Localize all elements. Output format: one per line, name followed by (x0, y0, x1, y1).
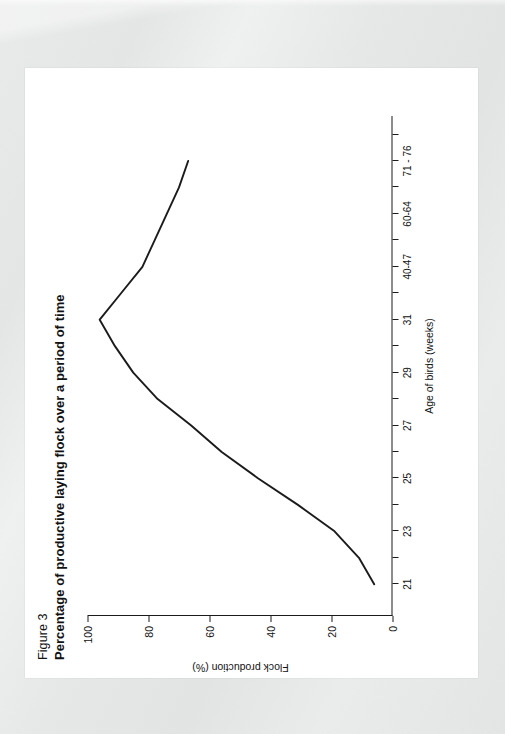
x-axis-tick (392, 583, 398, 584)
y-axis-title: Flock production (%) (191, 662, 287, 674)
y-axis-tick-label: 20 (325, 626, 337, 656)
x-axis-tick-label: 21 (401, 579, 412, 590)
y-axis-tick (392, 616, 393, 622)
x-axis-tick-label: 60-64 (401, 201, 412, 227)
x-axis-tick (392, 160, 398, 161)
document-page: Figure 3 Percentage of productive laying… (25, 68, 478, 678)
x-axis-minor-tick (392, 504, 398, 505)
x-axis-tick (392, 425, 398, 426)
y-axis-tick-label: 0 (386, 626, 398, 656)
x-axis-tick-label: 23 (401, 526, 412, 537)
line-chart-plot-area: 020406080100 21232527293140-4760-6471 - … (87, 116, 392, 616)
x-axis-minor-tick (392, 239, 398, 240)
x-axis-minor-tick (392, 451, 398, 452)
x-axis-tick-label: 40-47 (401, 254, 412, 280)
scanned-page-screenshot: Figure 3 Percentage of productive laying… (0, 0, 505, 734)
x-axis-tick (392, 266, 398, 267)
x-axis-tick-label: 71 - 76 (401, 145, 412, 176)
y-axis-tick-label: 40 (264, 626, 276, 656)
x-axis-tick (392, 530, 398, 531)
x-axis-minor-tick (392, 557, 398, 558)
y-axis-tick (331, 616, 332, 622)
y-axis-tick (87, 616, 88, 622)
x-axis-tick (392, 372, 398, 373)
flock-production-series (87, 116, 392, 616)
x-axis-minor-tick (392, 186, 398, 187)
x-axis-tick (392, 477, 398, 478)
figure-canvas: Figure 3 Percentage of productive laying… (25, 68, 478, 678)
x-axis-minor-tick (392, 134, 398, 135)
x-axis-tick (392, 213, 398, 214)
x-axis-title: Age of birds (weeks) (422, 116, 434, 616)
y-axis-tick (148, 616, 149, 622)
x-axis-tick-label: 25 (401, 473, 412, 484)
x-axis-tick (392, 319, 398, 320)
y-axis-tick-label: 100 (81, 626, 93, 656)
figure-title: Percentage of productive laying flock ov… (51, 294, 66, 660)
x-axis-tick-label: 27 (401, 420, 412, 431)
x-axis-minor-tick (392, 345, 398, 346)
x-axis-tick-label: 31 (401, 314, 412, 325)
x-axis-minor-tick (392, 292, 398, 293)
x-axis-tick-label: 29 (401, 367, 412, 378)
x-axis-minor-tick (392, 398, 398, 399)
y-axis-tick-label: 80 (142, 626, 154, 656)
y-axis-tick (270, 616, 271, 622)
figure-number-label: Figure 3 (35, 613, 49, 660)
y-axis-tick-label: 60 (203, 626, 215, 656)
y-axis-tick (209, 616, 210, 622)
